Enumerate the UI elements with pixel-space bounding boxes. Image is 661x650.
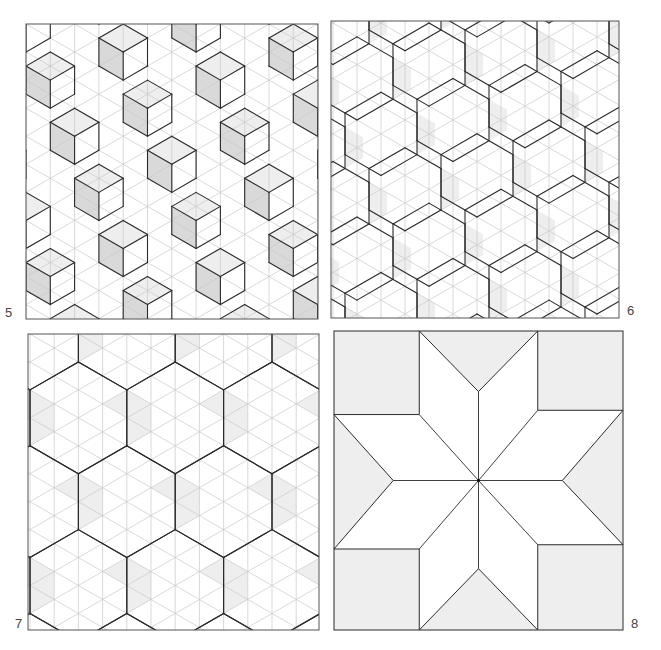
panel-7-label: 7: [15, 617, 22, 630]
panel-6-elongated-hexagon-tiling: [330, 20, 620, 319]
panel-5-cube-tiling: [25, 23, 319, 320]
panel-8-eight-point-star-quilt: [333, 330, 624, 631]
panel-6-label: 6: [627, 304, 634, 317]
panel-7-star-hexagon-tiling: [27, 333, 320, 631]
panel-5-label: 5: [5, 306, 12, 319]
panel-8-label: 8: [631, 617, 638, 630]
